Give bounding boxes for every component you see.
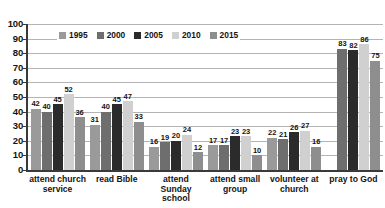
bar-value-label: 40 xyxy=(42,103,50,111)
bar-value-label: 42 xyxy=(31,100,39,108)
bar-slot: 31 xyxy=(90,24,100,170)
bar[interactable] xyxy=(267,138,277,170)
bar[interactable] xyxy=(160,142,170,170)
bar[interactable] xyxy=(75,117,85,170)
y-tick-mark xyxy=(22,170,27,171)
bar-chart: 1009080706050403020100 42404552363140454… xyxy=(0,0,385,208)
legend-item[interactable]: 1995 xyxy=(59,31,88,39)
bar[interactable] xyxy=(171,141,181,170)
legend-label: 2005 xyxy=(144,31,163,39)
legend-label: 2010 xyxy=(182,31,201,39)
x-axis-labels: attend church serviceread Bibleattend Su… xyxy=(28,175,383,205)
bar[interactable] xyxy=(252,155,262,170)
y-tick-mark xyxy=(22,112,27,113)
bar-value-label: 10 xyxy=(253,147,261,155)
x-axis-label: attend church service xyxy=(28,175,87,205)
bar-slot: 33 xyxy=(134,24,144,170)
bar-value-label: 82 xyxy=(349,42,357,50)
bar[interactable] xyxy=(241,136,251,170)
chart-legend: 19952000200520102015 xyxy=(57,29,240,41)
x-axis-label: volunteer at church xyxy=(265,175,324,205)
bar-slot: 40 xyxy=(101,24,111,170)
bar[interactable] xyxy=(112,104,122,170)
bar[interactable] xyxy=(123,101,133,170)
bar-value-label: 40 xyxy=(102,103,110,111)
x-axis-label: pray to God xyxy=(324,175,383,205)
bar[interactable] xyxy=(134,122,144,170)
y-axis-labels: 1009080706050403020100 xyxy=(0,24,24,170)
bar-slot: 12 xyxy=(193,24,203,170)
legend-item[interactable]: 2000 xyxy=(97,31,126,39)
bar-slot: 83 xyxy=(337,24,347,170)
bar-slot: 36 xyxy=(75,24,85,170)
bar-value-label: 17 xyxy=(220,137,228,145)
bar-slot: 75 xyxy=(370,24,380,170)
bar[interactable] xyxy=(193,152,203,170)
bar-value-label: 12 xyxy=(194,144,202,152)
bar[interactable] xyxy=(337,49,347,170)
legend-item[interactable]: 2005 xyxy=(134,31,163,39)
bar-group: 1717232310 xyxy=(206,24,265,170)
bar-slot: 42 xyxy=(31,24,41,170)
x-axis-line xyxy=(26,170,383,172)
bar-value-label: 27 xyxy=(301,122,309,130)
x-axis-label: attend Sunday school xyxy=(146,175,205,205)
bar-value-label: 17 xyxy=(209,137,217,145)
bar[interactable] xyxy=(311,147,321,170)
bar[interactable] xyxy=(278,139,288,170)
bar-slot: 17 xyxy=(219,24,229,170)
bar-value-label: 23 xyxy=(231,128,239,136)
legend-item[interactable]: 2015 xyxy=(210,31,239,39)
bar[interactable] xyxy=(289,132,299,170)
y-tick-mark xyxy=(22,39,27,40)
bar[interactable] xyxy=(219,145,229,170)
bar[interactable] xyxy=(182,135,192,170)
bar-value-label: 75 xyxy=(371,52,379,60)
bar-value-label: 31 xyxy=(91,116,99,124)
bar-slot: 23 xyxy=(230,24,240,170)
legend-label: 1995 xyxy=(69,31,88,39)
bar[interactable] xyxy=(101,112,111,170)
bar-slot: 16 xyxy=(149,24,159,170)
bar-value-label: 86 xyxy=(360,36,368,44)
bar-value-label: 33 xyxy=(135,113,143,121)
bar[interactable] xyxy=(300,131,310,170)
bar-groups: 4240455236314045473316192024121717232310… xyxy=(28,24,383,170)
bar[interactable] xyxy=(64,94,74,170)
bar-value-label: 24 xyxy=(183,126,191,134)
bar[interactable] xyxy=(348,50,358,170)
legend-item[interactable]: 2010 xyxy=(172,31,201,39)
legend-swatch-icon xyxy=(210,32,217,39)
bar-value-label: 45 xyxy=(113,96,121,104)
bar-value-label: 16 xyxy=(150,138,158,146)
bar-group: 1619202412 xyxy=(146,24,205,170)
y-tick-mark xyxy=(22,53,27,54)
bar-slot: 20 xyxy=(171,24,181,170)
bar[interactable] xyxy=(31,109,41,170)
bar-slot: 86 xyxy=(359,24,369,170)
bar[interactable] xyxy=(42,112,52,170)
bar-value-label: 23 xyxy=(242,128,250,136)
y-tick-mark xyxy=(22,68,27,69)
y-tick-label: 100 xyxy=(8,19,23,29)
bar-group: 4240455236 xyxy=(28,24,87,170)
bar[interactable] xyxy=(359,44,369,170)
bar-slot: 40 xyxy=(42,24,52,170)
bar-value-label: 26 xyxy=(290,124,298,132)
bar[interactable] xyxy=(230,136,240,170)
bar[interactable] xyxy=(90,125,100,170)
bar-value-label: 21 xyxy=(279,131,287,139)
legend-swatch-icon xyxy=(59,32,66,39)
y-tick-mark xyxy=(22,141,27,142)
bar-value-label: 20 xyxy=(172,132,180,140)
bar-slot: 27 xyxy=(300,24,310,170)
x-axis-label: read Bible xyxy=(87,175,146,205)
bar[interactable] xyxy=(53,104,63,170)
legend-swatch-icon xyxy=(172,32,179,39)
bar-group: 83828675 xyxy=(324,24,383,170)
legend-swatch-icon xyxy=(134,32,141,39)
bar[interactable] xyxy=(370,61,380,171)
bar[interactable] xyxy=(208,145,218,170)
bar-slot: 16 xyxy=(311,24,321,170)
bar[interactable] xyxy=(149,147,159,170)
